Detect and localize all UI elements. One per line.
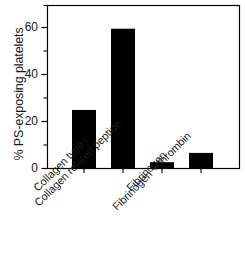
bar-fibrinogen-thrombin (189, 153, 213, 168)
y-tick-label-40: 40 (12, 68, 38, 80)
plot-area-svg (0, 0, 245, 266)
y-tick-label-0: 0 (12, 162, 38, 174)
y-tick-label-20: 20 (12, 115, 38, 127)
bar-chart-figure: % PS-exposing platelets 0 20 40 60 Colla… (0, 0, 245, 266)
y-axis-label: % PS-exposing platelets (12, 19, 30, 169)
bar-collagen-related-peptide (111, 29, 135, 168)
y-tick-label-60: 60 (12, 21, 38, 33)
